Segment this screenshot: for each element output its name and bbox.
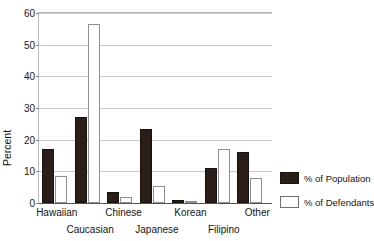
y-axis-label: Percent (1, 110, 13, 186)
bar (205, 168, 217, 203)
x-axis-label: Caucasian (67, 224, 114, 235)
plot-area: 0102030405060 (38, 12, 272, 204)
x-axis-label: Filipino (208, 224, 240, 235)
bar-group (75, 13, 108, 203)
bar (140, 129, 152, 203)
bar-group (172, 13, 205, 203)
bar (153, 186, 165, 203)
y-tick-label: 40 (24, 71, 35, 82)
x-axis-label: Hawaiian (36, 207, 77, 218)
x-axis-labels: HawaiianCaucasianChineseJapaneseKoreanFi… (38, 206, 272, 240)
bar-group (42, 13, 75, 203)
bar-group (107, 13, 140, 203)
y-tick-label: 30 (24, 103, 35, 114)
x-axis-label: Korean (174, 207, 206, 218)
bar (75, 117, 87, 203)
y-tick-label: 50 (24, 39, 35, 50)
legend-swatch (280, 196, 299, 208)
y-tick-label: 20 (24, 134, 35, 145)
bar (185, 201, 197, 203)
bar (172, 200, 184, 203)
bar (88, 24, 100, 203)
bar-group (237, 13, 270, 203)
legend-label: % of Defendants (304, 197, 374, 208)
x-axis-label: Japanese (135, 224, 178, 235)
bar (250, 178, 262, 203)
bar (42, 149, 54, 203)
y-tick-label: 10 (24, 166, 35, 177)
chart-legend: % of Population% of Defendants (280, 168, 373, 216)
y-tick-label: 0 (29, 198, 35, 209)
chart-title-fragment (36, 0, 286, 2)
y-tick-mark (36, 203, 39, 204)
x-axis-label: Chinese (105, 207, 142, 218)
bar-group (140, 13, 173, 203)
legend-entry: % of Population (280, 168, 373, 188)
bar (120, 197, 132, 203)
bar (55, 176, 67, 203)
bar-groups (39, 13, 272, 203)
legend-label: % of Population (304, 173, 371, 184)
bar (107, 192, 119, 203)
y-tick-label: 60 (24, 8, 35, 19)
bar (218, 149, 230, 203)
bar (237, 152, 249, 203)
x-axis-label: Other (245, 207, 270, 218)
legend-entry: % of Defendants (280, 192, 373, 212)
bar-group (205, 13, 238, 203)
legend-swatch (280, 172, 299, 184)
